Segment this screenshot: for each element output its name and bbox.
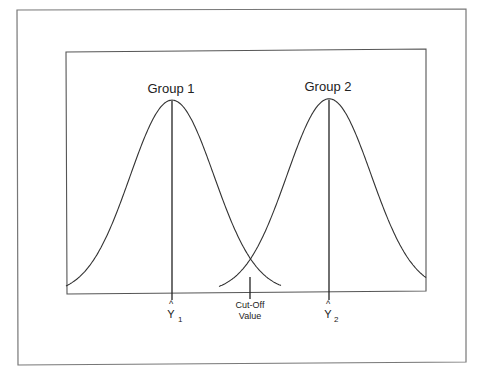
y2-symbol: Y: [324, 308, 332, 320]
y1-subscript: 1: [178, 315, 183, 324]
plot-box: [66, 49, 426, 294]
cutoff-label-line2: Value: [239, 311, 261, 321]
group1-curve: [66, 100, 281, 286]
group2-label: Group 2: [305, 79, 352, 94]
discriminant-figure: Group 1 Group 2 ^ Y 1 ^ Y 2 Cut-Off Valu…: [0, 0, 481, 384]
cutoff-label-line1: Cut-Off: [236, 300, 265, 310]
group1-label: Group 1: [148, 81, 195, 96]
y2-subscript: 2: [334, 315, 339, 324]
y1-symbol: Y: [167, 308, 175, 320]
